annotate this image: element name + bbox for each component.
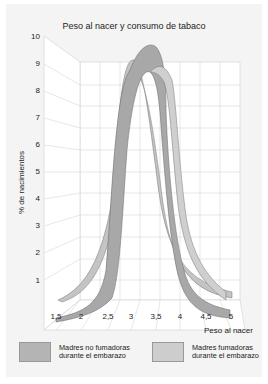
y-tick: 4 [24,194,40,203]
y-tick: 9 [24,59,40,68]
legend-swatch [152,342,184,362]
x-tick: 4 [170,312,190,321]
y-axis-label: % de nacimientos [17,148,26,218]
x-axis-label: Peso al nacer [204,326,253,335]
side-wall [44,36,80,330]
x-tick: 2 [71,312,91,321]
y-tick: 1 [24,276,40,285]
x-tick: 4,5 [196,312,216,321]
legend-label: Madres no fumadoras durante el embarazo [59,344,130,361]
y-tick: 5 [24,167,40,176]
legend-label: Madres fumadoras durante el embarazo [192,344,259,361]
y-tick: 7 [24,113,40,122]
legend-item-smokers: Madres fumadoras durante el embarazo [152,342,259,362]
y-tick: 6 [24,140,40,149]
x-tick: 3 [121,312,141,321]
x-tick: 1,5 [46,312,66,321]
x-tick: 5 [221,312,241,321]
x-tick: 2,5 [98,312,118,321]
legend-swatch [19,342,51,362]
y-tick: 2 [24,248,40,257]
y-tick: 8 [24,86,40,95]
y-tick: 3 [24,221,40,230]
x-tick: 3,5 [146,312,166,321]
legend-item-nonsmokers: Madres no fumadoras durante el embarazo [19,342,130,362]
chart-title: Peso al nacer y consumo de tabaco [0,21,268,31]
y-tick: 10 [24,32,40,41]
